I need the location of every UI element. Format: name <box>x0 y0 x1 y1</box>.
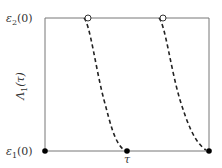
label-epsilon2: ε2(0) <box>6 12 33 27</box>
label-lambda1-tau: Λ1(τ) <box>14 72 29 101</box>
open-point-1 <box>85 15 91 21</box>
dashed-curve-1 <box>84 18 124 150</box>
frame <box>45 18 209 151</box>
label-tau-tick: τ <box>124 153 131 166</box>
label-epsilon1: ε1(0) <box>6 145 33 160</box>
diagram-canvas: ε2(0) ε1(0) Λ1(τ) τ <box>0 0 222 168</box>
filled-point-left <box>42 148 48 154</box>
filled-point-right <box>206 148 212 154</box>
open-point-2 <box>160 15 166 21</box>
dashed-curve-2 <box>159 18 206 150</box>
dashed-curves <box>84 18 206 150</box>
